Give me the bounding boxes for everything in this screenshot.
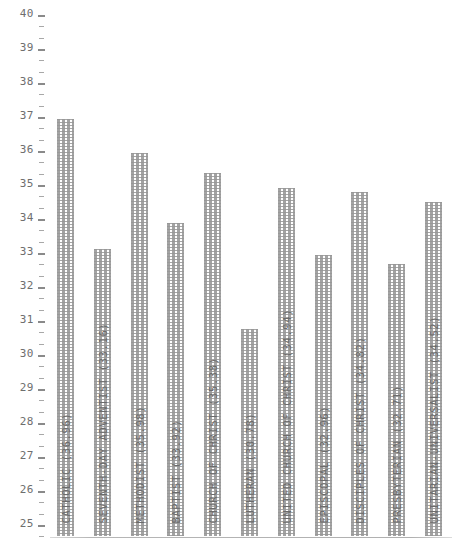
tick-mark <box>38 49 45 51</box>
bar-category-label: DISCIPLES OF CHRIST (34.82) <box>355 336 366 523</box>
tick-mark <box>38 491 45 493</box>
tick-mark <box>39 480 44 481</box>
tick-mark <box>39 140 44 141</box>
tick-mark <box>39 468 44 469</box>
y-axis-tick-label: 35 <box>20 178 34 189</box>
y-axis: 40393837363534333231302928272625 <box>0 0 56 547</box>
y-axis-tick-label: 32 <box>20 280 34 291</box>
tick-mark <box>38 219 45 221</box>
y-axis-tick-label: 27 <box>20 450 34 461</box>
tick-mark <box>38 525 45 527</box>
tick-mark <box>39 38 44 39</box>
y-axis-tick-label: 30 <box>20 348 34 359</box>
tick-mark <box>39 242 44 243</box>
tick-mark <box>39 94 44 95</box>
tick-mark <box>39 310 44 311</box>
tick-mark <box>39 276 44 277</box>
y-axis-tick-label: 40 <box>20 8 34 19</box>
bar-chart: 40393837363534333231302928272625 CATHOLI… <box>0 0 454 547</box>
tick-mark <box>38 355 45 357</box>
y-axis-tick-label: 38 <box>20 76 34 87</box>
bar-category-label: EPISCOPAL (32.96) <box>318 405 329 523</box>
bar-category-label: LUTHERAN (30.78) <box>245 412 256 523</box>
tick-mark <box>39 446 44 447</box>
tick-mark <box>39 208 44 209</box>
y-axis-tick-label: 26 <box>20 484 34 495</box>
y-axis-tick-label: 25 <box>20 518 34 529</box>
tick-mark <box>38 253 45 255</box>
tick-mark <box>38 15 45 17</box>
y-axis-tick-label: 36 <box>20 144 34 155</box>
bar-category-label: CHURCH OF CHRIST (35.38) <box>208 357 219 523</box>
tick-mark <box>39 344 44 345</box>
tick-mark <box>39 400 44 401</box>
tick-mark <box>39 332 44 333</box>
y-axis-tick-label: 39 <box>20 42 34 53</box>
tick-mark <box>39 264 44 265</box>
tick-mark <box>39 162 44 163</box>
bar-category-label: SEVENTH-DAY ADVENTIST (33.16) <box>97 322 108 523</box>
tick-mark <box>38 117 45 119</box>
tick-mark <box>39 366 44 367</box>
y-axis-tick-label: 31 <box>20 314 34 325</box>
tick-mark <box>38 83 45 85</box>
tick-mark <box>39 128 44 129</box>
tick-mark <box>39 536 44 537</box>
tick-mark <box>39 60 44 61</box>
y-axis-tick-label: 29 <box>20 382 34 393</box>
bar-category-label: BAPTIST (33.92) <box>171 419 182 523</box>
tick-mark <box>39 106 44 107</box>
tick-mark <box>39 174 44 175</box>
tick-mark <box>39 26 44 27</box>
tick-mark <box>39 196 44 197</box>
tick-mark <box>38 423 45 425</box>
y-axis-tick-label: 34 <box>20 212 34 223</box>
tick-mark <box>38 457 45 459</box>
bar-category-label: UNITARIAN-UNIVERSALIST (34.52) <box>429 315 440 523</box>
tick-mark <box>39 412 44 413</box>
tick-mark <box>39 434 44 435</box>
bar-category-label: METHODIST (35.98) <box>134 405 145 523</box>
axis-baseline <box>50 537 452 538</box>
y-axis-tick-label: 37 <box>20 110 34 121</box>
tick-mark <box>39 72 44 73</box>
tick-mark <box>39 298 44 299</box>
plot-area: CATHOLIC (36.96)SEVENTH-DAY ADVENTIST (3… <box>56 0 454 547</box>
bar-category-label: PRESBYTERIAN (32.71) <box>392 385 403 523</box>
tick-mark <box>38 151 45 153</box>
tick-mark <box>39 514 44 515</box>
y-axis-tick-label: 28 <box>20 416 34 427</box>
tick-mark <box>38 287 45 289</box>
tick-mark <box>39 230 44 231</box>
bar-category-label: CATHOLIC (36.96) <box>61 412 72 523</box>
tick-mark <box>38 185 45 187</box>
tick-mark <box>39 378 44 379</box>
y-axis-tick-label: 33 <box>20 246 34 257</box>
bar-category-label: UNITED CHURCH OF CHRIST (34.94) <box>281 308 292 523</box>
tick-mark <box>38 389 45 391</box>
tick-mark <box>38 321 45 323</box>
tick-mark <box>39 502 44 503</box>
